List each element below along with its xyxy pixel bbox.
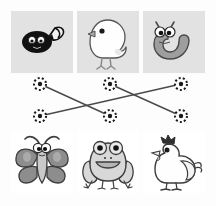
- connection-node-n-top-right[interactable]: [175, 78, 187, 90]
- caterpillar-icon: [143, 11, 205, 73]
- node-center-dot-icon: [38, 114, 42, 118]
- frog-icon: [77, 131, 139, 193]
- matching-puzzle: [0, 0, 216, 206]
- node-center-dot-icon: [179, 82, 183, 86]
- hen-icon: [143, 131, 205, 193]
- connection-line-tadpole-to-frog[interactable]: [40, 84, 110, 116]
- card-butterfly[interactable]: [11, 131, 73, 193]
- node-center-dot-icon: [108, 114, 112, 118]
- connection-node-n-bottom-left[interactable]: [34, 110, 46, 122]
- connection-line-chick-to-hen[interactable]: [110, 84, 181, 116]
- connection-node-n-top-left[interactable]: [34, 78, 46, 90]
- card-frog[interactable]: [77, 131, 139, 193]
- butterfly-icon: [11, 131, 73, 193]
- chick-icon: [77, 11, 139, 73]
- card-tadpole[interactable]: [11, 11, 73, 73]
- connection-node-n-bottom-mid[interactable]: [104, 110, 116, 122]
- node-center-dot-icon: [179, 114, 183, 118]
- connection-node-n-bottom-right[interactable]: [175, 110, 187, 122]
- node-center-dot-icon: [38, 82, 42, 86]
- card-chick[interactable]: [77, 11, 139, 73]
- card-hen[interactable]: [143, 131, 205, 193]
- node-center-dot-icon: [108, 82, 112, 86]
- tadpole-icon: [11, 11, 73, 73]
- connection-node-n-top-mid[interactable]: [104, 78, 116, 90]
- card-caterpillar[interactable]: [143, 11, 205, 73]
